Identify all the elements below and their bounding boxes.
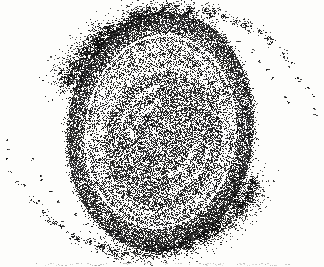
galaxy-stipple-image xyxy=(0,0,324,267)
figure-page xyxy=(0,0,324,267)
